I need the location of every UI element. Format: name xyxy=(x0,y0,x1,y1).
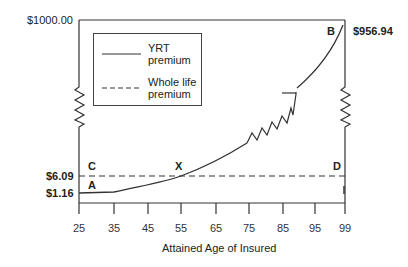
point-x: X xyxy=(175,160,182,172)
x-tick-label: 65 xyxy=(210,222,222,234)
legend-yrt-label-1: YRT xyxy=(148,42,170,54)
x-tick-label: 95 xyxy=(309,222,321,234)
point-c: C xyxy=(88,160,96,172)
legend-wl-label-1: Whole life xyxy=(148,76,196,88)
x-tick-label: 75 xyxy=(243,222,255,234)
legend-yrt-label-2: premium xyxy=(148,54,191,66)
y-label-top-right: $956.94 xyxy=(353,25,393,37)
yrt-line-upper xyxy=(297,25,343,88)
x-tick-label: 55 xyxy=(175,222,187,234)
point-b: B xyxy=(327,25,335,37)
x-tick-label: 45 xyxy=(142,222,154,234)
y-label-top: $1000.00 xyxy=(27,14,73,26)
legend-wl-label-2: premium xyxy=(148,88,191,100)
point-d: D xyxy=(333,160,341,172)
point-a: A xyxy=(88,179,96,191)
yrt-zigzag-break xyxy=(247,92,296,143)
x-ticks xyxy=(79,203,345,214)
yrt-line-lower xyxy=(79,143,247,193)
y-label-yrt-start: $1.16 xyxy=(46,187,74,199)
x-tick-label: 85 xyxy=(277,222,289,234)
x-tick-label: 25 xyxy=(73,222,85,234)
legend: YRT premium Whole life premium xyxy=(93,33,202,106)
y-label-whole-life: $6.09 xyxy=(46,170,74,182)
x-tick-label: 35 xyxy=(108,222,120,234)
premium-chart: $1000.00 $956.94 $6.09 $1.16 C A X D B 2… xyxy=(0,0,408,267)
x-axis-title: Attained Age of Insured xyxy=(162,242,276,254)
x-tick-label: 99 xyxy=(339,222,351,234)
